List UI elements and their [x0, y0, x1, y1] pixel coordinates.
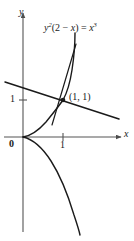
y-axis-label: y [19, 7, 23, 17]
x-axis-label: x [124, 129, 128, 139]
equation-label: y2(2 − x) = x3 [44, 23, 97, 33]
plot-canvas [0, 0, 134, 241]
curve-lower-branch [23, 137, 80, 235]
x-axis-tick-label-1: 1 [60, 140, 65, 150]
point-label-1-1: (1, 1) [69, 92, 91, 102]
point-marker-1-1 [61, 98, 66, 103]
tangent-line [52, 44, 76, 125]
equation-close: ) = [75, 22, 89, 33]
equation-open: (2 − [52, 22, 71, 33]
curve-upper-branch [23, 33, 75, 137]
figure-container: y x 0 1 1 (1, 1) y2(2 − x) = x3 [0, 0, 134, 241]
origin-label: 0 [9, 139, 14, 149]
y-axis-tick-label-1: 1 [10, 94, 15, 104]
equation-x-exponent: 3 [94, 21, 97, 28]
